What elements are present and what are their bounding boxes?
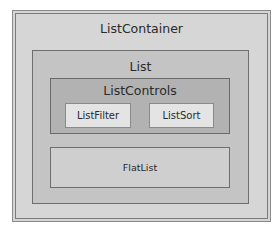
list-filter-box: ListFilter — [65, 103, 131, 128]
list-container-label: ListContainer — [13, 21, 270, 36]
flat-list-box: FlatList — [50, 147, 230, 188]
list-sort-box: ListSort — [149, 103, 214, 128]
list-controls-label: ListControls — [51, 83, 229, 98]
list-label: List — [33, 59, 248, 74]
